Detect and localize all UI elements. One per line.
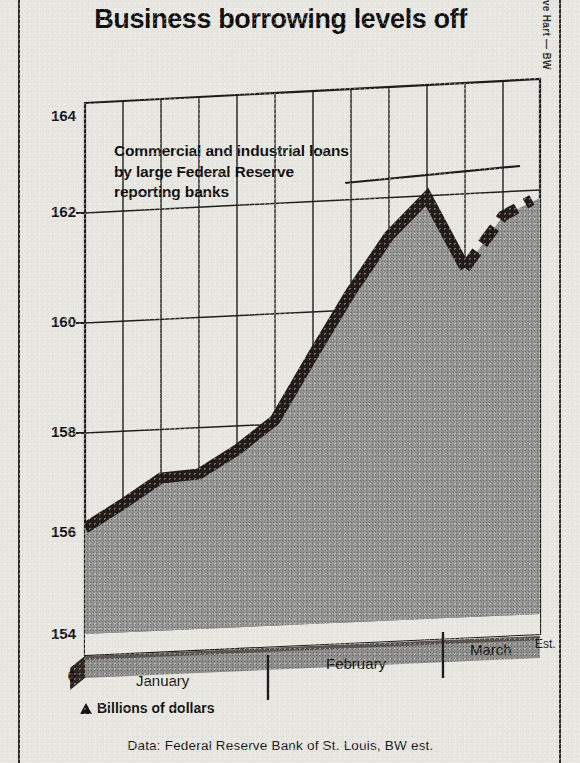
- annotation-leader-line: [345, 166, 520, 183]
- x-axis-label-january: January: [136, 672, 189, 689]
- x-axis-label-march: March: [470, 641, 512, 658]
- chart-annotation: Commercial and industrial loans by large…: [114, 141, 349, 203]
- x-axis-label-february: February: [326, 655, 386, 672]
- annotation-line-1: Commercial and industrial loans: [114, 141, 349, 162]
- triangle-up-icon: [80, 703, 92, 714]
- y-axis-label-156: 156: [18, 523, 76, 540]
- source-caption: Data: Federal Reserve Bank of St. Louis,…: [28, 738, 533, 753]
- annotation-line-3: reporting banks: [114, 182, 349, 203]
- y-axis-label-164: 164: [18, 107, 76, 124]
- y-axis-label-162: 162: [18, 203, 76, 220]
- y-axis-ticks: [76, 213, 85, 433]
- y-axis-label-154: 154: [18, 625, 76, 642]
- units-label: Billions of dollars: [97, 700, 214, 716]
- y-axis-label-160: 160: [18, 313, 76, 330]
- annotation-line-2: by large Federal Reserve: [114, 162, 349, 183]
- y-axis-label-158: 158: [18, 423, 76, 440]
- estimate-label: Est.: [535, 637, 556, 651]
- units-caption: Billions of dollars: [80, 700, 214, 716]
- data-area: [70, 197, 540, 656]
- y-axis-label-zero: 0: [18, 667, 76, 684]
